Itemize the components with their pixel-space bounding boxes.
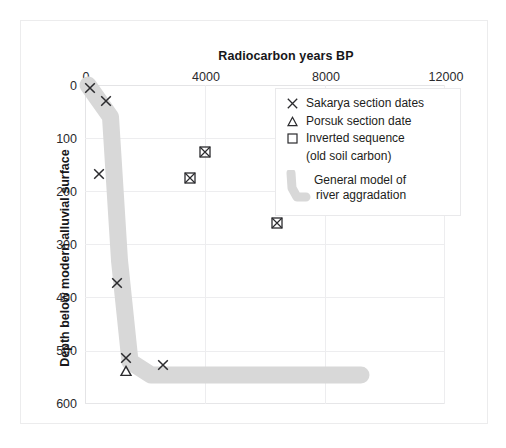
square-marker-icon bbox=[284, 131, 306, 146]
xtick-label-8000: 8000 bbox=[296, 70, 356, 84]
legend-label-sakarya: Sakarya section dates bbox=[306, 96, 424, 111]
legend-item-sakarya: Sakarya section dates bbox=[284, 96, 452, 111]
y-axis-title: Depth below modern alluvial surface bbox=[58, 118, 72, 398]
data-point-sakarya bbox=[98, 93, 114, 109]
triangle-marker-icon bbox=[284, 114, 306, 129]
legend-label-aggradation-band: General model of river aggradation bbox=[314, 173, 406, 203]
legend-label-porsuk: Porsuk section date bbox=[306, 114, 411, 129]
chart-legend: Sakarya section dates Porsuk section dat… bbox=[275, 88, 461, 216]
chart-title: Radiocarbon years BP bbox=[106, 49, 466, 63]
data-point-porsuk bbox=[118, 363, 134, 379]
data-point-sakarya bbox=[82, 80, 98, 96]
ytick-label-600: 600 bbox=[43, 397, 77, 411]
data-point-inverted-sequence bbox=[182, 170, 198, 186]
legend-item-aggradation-band: General model of river aggradation bbox=[284, 170, 452, 206]
x-marker-icon bbox=[284, 96, 306, 111]
aggradation-band-icon bbox=[284, 170, 314, 206]
chart-figure: Radiocarbon years BP 0 4000 8000 12000 0… bbox=[0, 0, 506, 448]
data-point-sakarya bbox=[91, 166, 107, 182]
legend-label-inverted-sequence: Inverted sequence bbox=[306, 131, 405, 146]
data-point-inverted-sequence bbox=[197, 144, 213, 160]
legend-label-inverted-sequence-sub: (old soil carbon) bbox=[284, 149, 452, 164]
data-point-sakarya bbox=[155, 357, 171, 373]
legend-label-aggradation-line1: General model of bbox=[314, 173, 406, 187]
legend-item-inverted-sequence: Inverted sequence bbox=[284, 131, 452, 146]
data-point-inverted-sequence bbox=[269, 215, 285, 231]
xtick-label-4000: 4000 bbox=[176, 70, 236, 84]
legend-item-porsuk: Porsuk section date bbox=[284, 114, 452, 129]
legend-label-aggradation-line2: river aggradation bbox=[316, 188, 406, 202]
xtick-label-12000: 12000 bbox=[416, 70, 476, 84]
ytick-label-0: 0 bbox=[43, 79, 77, 93]
data-point-sakarya bbox=[109, 275, 125, 291]
